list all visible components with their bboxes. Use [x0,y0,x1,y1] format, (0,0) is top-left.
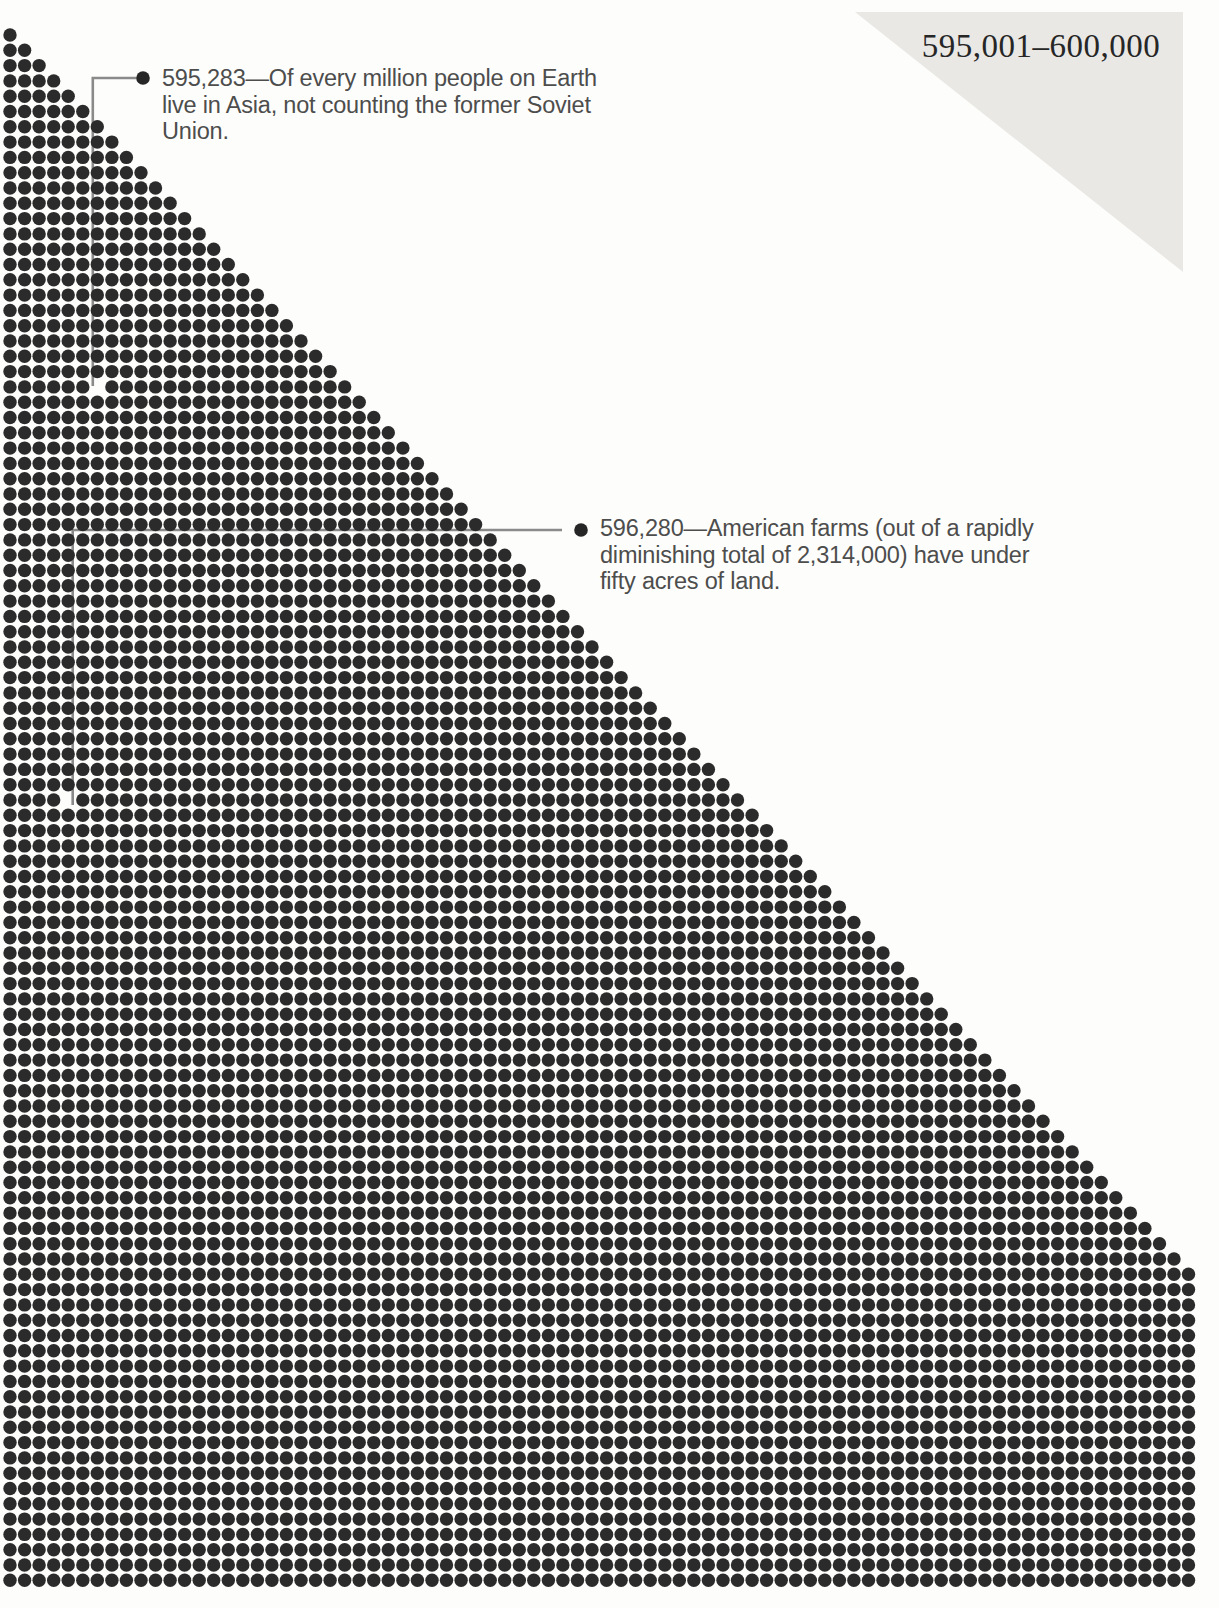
dot [134,396,147,409]
dot [542,610,555,623]
dot [804,1451,817,1464]
dot [18,977,31,990]
dot [993,1375,1006,1388]
dot [367,900,380,913]
dot [193,855,206,868]
dot [265,1558,278,1571]
dot [382,962,395,975]
dot [454,778,467,791]
dot [367,1421,380,1434]
dot [61,396,74,409]
dot [120,1390,133,1403]
dot [1095,1574,1108,1587]
dot [614,1421,627,1434]
dot [265,931,278,944]
dot [411,533,424,546]
dot [833,1421,846,1434]
dot [411,640,424,653]
dot [731,824,744,837]
dot [251,1023,264,1036]
dot [61,885,74,898]
dot [847,1543,860,1556]
dot [862,1436,875,1449]
dot [876,1375,889,1388]
dot [498,1298,511,1311]
dot [367,1252,380,1265]
dot [61,1497,74,1510]
dot [105,396,118,409]
dot [673,1115,686,1128]
dot [251,533,264,546]
dot [280,1222,293,1235]
dot [120,702,133,715]
dot [32,319,45,332]
dot [876,1482,889,1495]
dot [833,900,846,913]
dot [687,1543,700,1556]
dot [1007,1084,1020,1097]
dot [498,747,511,760]
dot [527,946,540,959]
dot [978,1161,991,1174]
dot [323,411,336,424]
dot [323,809,336,822]
dot [3,579,16,592]
dot [993,1314,1006,1327]
dot [193,1191,206,1204]
dot [134,503,147,516]
dot [1182,1528,1195,1541]
dot [411,1329,424,1342]
dot [440,1130,453,1143]
dot [193,365,206,378]
dot [367,916,380,929]
dot [193,457,206,470]
dot [353,1237,366,1250]
dot [789,1008,802,1021]
dot [673,1298,686,1311]
dot [280,640,293,653]
dot [760,1528,773,1541]
dot [469,640,482,653]
dot [629,885,642,898]
dot [498,1329,511,1342]
dot [91,1023,104,1036]
dot [294,809,307,822]
dot [382,1329,395,1342]
dot [134,1099,147,1112]
dot [1153,1359,1166,1372]
dot [585,1451,598,1464]
dot [396,1268,409,1281]
dot [1066,1543,1079,1556]
dot [178,717,191,730]
dot [338,1359,351,1372]
dot [513,1467,526,1480]
dot [614,946,627,959]
dot [1022,1543,1035,1556]
dot [294,1436,307,1449]
dot [1138,1497,1151,1510]
dot [498,931,511,944]
dot [833,916,846,929]
dot [251,1436,264,1449]
dot [3,549,16,562]
dot [629,1314,642,1327]
dot [294,1283,307,1296]
dot [76,1375,89,1388]
dot [193,1543,206,1556]
dot [411,946,424,959]
dot [1182,1543,1195,1556]
dot [484,931,497,944]
dot [3,1084,16,1097]
dot [527,1344,540,1357]
dot [149,1176,162,1189]
dot [382,1038,395,1051]
dot [222,1283,235,1296]
dot [1066,1482,1079,1495]
dot [789,1283,802,1296]
dot [905,1436,918,1449]
dot [338,717,351,730]
dot [134,1482,147,1495]
dot [178,809,191,822]
dot [600,1405,613,1418]
dot [775,1482,788,1495]
